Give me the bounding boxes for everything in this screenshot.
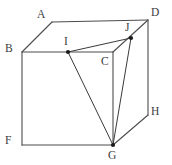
vertex-label-j: J <box>125 22 129 34</box>
vertex-label-g: G <box>108 150 116 162</box>
vertex-label-f: F <box>5 135 11 147</box>
edge-A-B <box>22 22 52 52</box>
point-dot-g <box>111 143 115 147</box>
figure-canvas <box>0 0 172 165</box>
vertex-label-i: I <box>64 36 68 48</box>
segment-I-J <box>68 38 131 52</box>
point-dot-j <box>129 36 133 40</box>
marked-points <box>66 36 133 147</box>
point-dot-i <box>66 50 70 54</box>
inscribed-triangle <box>68 38 131 145</box>
edge-A-D <box>52 20 148 22</box>
segment-J-G <box>113 38 131 145</box>
edge-G-H <box>113 115 148 145</box>
vertex-label-b: B <box>5 43 13 55</box>
vertex-label-a: A <box>37 9 45 21</box>
vertex-label-c: C <box>101 56 109 68</box>
geometry-figure: ABCDFGHIJ <box>0 0 172 165</box>
vertex-label-d: D <box>151 7 159 19</box>
vertex-label-h: H <box>151 106 159 118</box>
